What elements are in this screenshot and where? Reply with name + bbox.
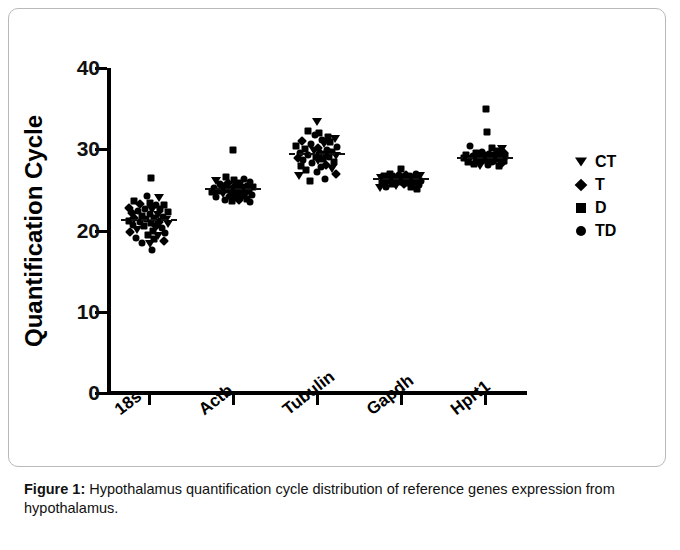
legend-item-label: T [595,177,605,193]
data-point [143,192,150,199]
legend-item-label: CT [595,154,616,170]
data-point [228,198,235,205]
y-axis-tick-label: 10 [56,300,100,324]
mean-line [289,153,344,155]
data-point [213,194,220,201]
figure-caption-label: Figure 1: [24,481,85,497]
x-axis-tick [148,394,151,405]
data-point [312,118,322,126]
data-point [294,172,304,180]
data-point [246,199,253,206]
legend: CTTDTD [573,152,616,244]
figure-caption: Figure 1: Hypothalamus quantification cy… [24,480,656,518]
legend-item-label: D [595,200,607,216]
data-point [149,247,156,254]
y-axis-title-host: Quantification Cycle [40,68,41,393]
y-axis-tick-label: 0 [56,381,100,405]
data-point [485,161,492,168]
legend-item-d: D [573,198,616,218]
data-point [304,128,311,135]
legend-item-td: TD [573,221,616,241]
data-point [484,129,491,136]
mean-line [121,219,176,221]
data-point [332,169,342,179]
data-point [309,160,316,167]
data-point [307,177,314,184]
legend-item-label: TD [595,223,616,239]
data-point [483,106,490,113]
y-axis-tick-label: 30 [56,137,100,161]
data-point [414,186,421,193]
mean-line [457,157,512,159]
data-point [314,169,321,176]
figure-container: Quantification Cycle 010203040 18sActbTu… [0,0,680,550]
circle-icon [573,223,589,239]
data-point [148,174,155,181]
legend-item-ct: CT [573,152,616,172]
figure-caption-text: Hypothalamus quantification cycle distri… [24,481,615,516]
data-point [496,163,503,170]
y-axis-tick-label: 20 [56,219,100,243]
diamond-icon [573,177,589,193]
data-point [475,162,485,170]
square-icon [573,200,589,216]
data-point [391,182,401,190]
data-point [467,143,474,150]
legend-item-t: T [573,175,616,195]
scatter-plot-area [107,68,527,393]
data-point [375,184,385,192]
y-axis-title: Quantification Cycle [20,114,48,346]
data-point [230,147,237,154]
mean-line [205,188,260,190]
y-axis-tick-label: 40 [56,56,100,80]
triangle-down-icon [573,154,589,170]
data-point [322,175,329,182]
mean-line [373,178,428,180]
